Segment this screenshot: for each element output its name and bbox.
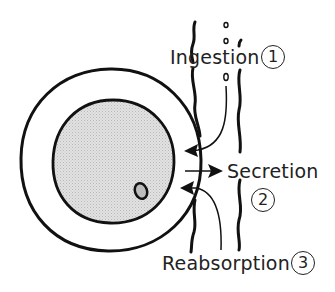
cell-diagram	[0, 0, 335, 292]
secretion-label: Secretion	[227, 162, 318, 181]
reabsorption-number-badge: 3	[291, 251, 315, 275]
secretion-number-badge: 2	[251, 188, 275, 212]
reabsorption-label: Reabsorption	[162, 254, 290, 273]
ingestion-number-badge: 1	[261, 45, 285, 69]
particle-icon	[224, 39, 228, 44]
ingestion-label: Ingestion	[170, 48, 260, 67]
lumen-wall-right	[238, 40, 241, 250]
particle-icon	[224, 23, 228, 28]
nucleus	[53, 100, 174, 223]
particle-icon	[224, 74, 228, 81]
